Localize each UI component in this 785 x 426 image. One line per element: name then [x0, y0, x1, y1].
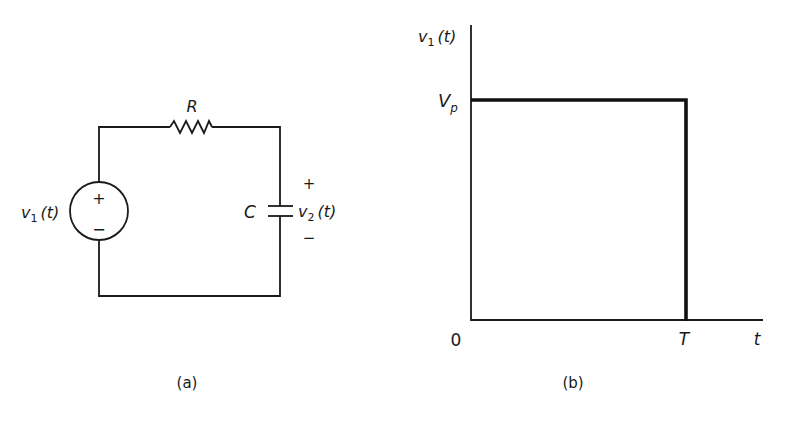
resistor-label: R [186, 97, 197, 116]
origin-label: 0 [451, 330, 462, 350]
capacitor-minus-sign: − [303, 229, 316, 247]
wire-top-right [212, 127, 280, 206]
source-plus-sign: + [92, 189, 105, 208]
source-minus-sign: − [92, 220, 105, 239]
y-tick-vp: Vp [438, 90, 458, 115]
capacitor-voltage-arg: (t) [317, 202, 336, 221]
capacitor-plus-sign: + [303, 175, 316, 193]
capacitor-label: C [244, 202, 256, 222]
rc-circuit [70, 121, 293, 296]
capacitor-voltage-label: v2(t) [298, 202, 336, 224]
figure: + − v1(t) R C + − v2(t) (a) v1(t) Vp 0 T… [0, 0, 785, 426]
capacitor-voltage-sub: 2 [307, 211, 314, 224]
resistor-icon [170, 121, 212, 133]
wire-top-left [99, 127, 170, 182]
y-axis-label-sub: 1 [427, 36, 434, 49]
x-tick-t-period: T [679, 329, 691, 349]
y-axis-label: v1(t) [418, 27, 456, 49]
source-label: v1(t) [21, 203, 59, 225]
caption-b: (b) [562, 374, 583, 392]
source-label-arg: (t) [40, 203, 59, 222]
pulse-waveform [471, 100, 686, 321]
x-axis-label: t [754, 329, 762, 349]
caption-a: (a) [177, 374, 198, 392]
pulse-plot [471, 25, 763, 321]
y-tick-sub: p [449, 101, 458, 115]
source-label-sub: 1 [30, 212, 37, 225]
wire-bottom [99, 216, 280, 296]
y-axis-label-arg: (t) [437, 27, 456, 46]
